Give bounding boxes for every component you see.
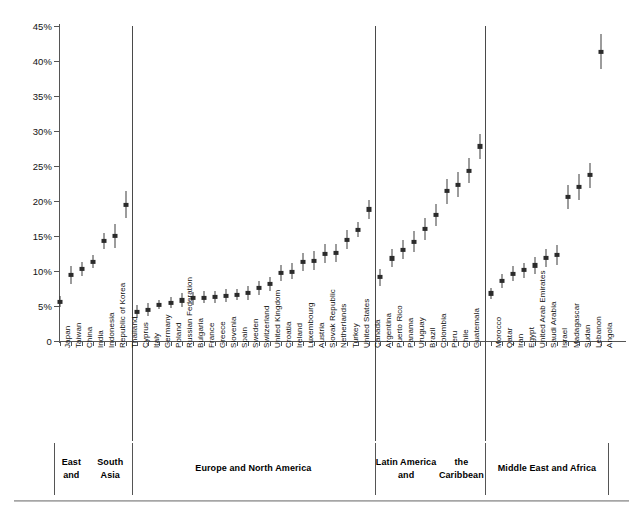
data-point-marker [91,260,96,264]
data-point-marker [378,275,383,279]
data-point-marker [433,213,438,217]
category-label: Iran [516,334,525,348]
data-point-marker [267,282,272,286]
data-point-marker [80,267,85,271]
category-label: China [85,327,94,348]
category-label: Morocco [494,317,503,348]
category-label: Peru [450,331,459,348]
data-point-marker [179,298,184,302]
y-axis-tick-label: 35% [0,91,52,102]
data-point-marker [444,189,449,193]
data-point-marker [555,253,560,257]
group-separator [375,26,376,441]
data-point-marker [400,248,405,252]
category-label: Sudan [583,324,592,348]
data-point-marker [334,251,339,255]
category-label: Germany [163,314,172,348]
y-axis-tick-label: 20% [0,196,52,207]
data-point-marker [466,169,471,173]
data-point-marker [312,258,317,262]
category-label: Cyprus [141,322,150,348]
group-caption-line: the Caribbean [437,456,485,482]
data-point-marker [234,293,239,297]
category-label: Luxembourg [306,303,315,348]
category-label: Egypt [527,327,536,348]
data-point-marker [223,293,228,297]
category-label: Russian Federation [185,277,194,348]
group-box-border [608,443,609,495]
group-caption: Europe and North America [132,443,375,495]
category-label: Bulgaria [196,318,205,348]
group-caption: Latin America andthe Caribbean [375,443,486,495]
category-label: Italy [152,333,161,348]
data-point-marker [345,237,350,241]
category-label: Republic of Korea [118,283,127,348]
data-point-marker [533,263,538,267]
data-point-marker [422,227,427,231]
category-label: Angola [605,322,614,348]
y-axis-tick-label: 30% [0,126,52,137]
data-point-marker [146,308,151,312]
group-caption-line: Middle East and Africa [498,462,596,475]
group-separator [485,26,486,441]
data-point-marker [367,207,372,211]
y-axis-tick-label: 10% [0,266,52,277]
group-caption-line: Latin America and [375,456,437,482]
category-label: Qatar [505,327,514,348]
category-label: Chile [461,329,470,348]
group-caption: East andSouth Asia [54,443,132,495]
data-point-marker [488,291,493,295]
data-point-marker [301,260,306,264]
data-point-marker [212,295,217,299]
data-point-marker [455,183,460,187]
category-label: Saudi Arabia [549,301,558,348]
data-point-marker [102,239,107,243]
data-point-marker [113,234,118,238]
data-point-marker [477,144,482,148]
category-label: Netherlands [339,304,348,348]
data-point-marker [544,256,549,260]
y-axis-tick [54,236,60,237]
category-label: Guatemala [472,308,481,348]
category-label: Lebanon [594,316,603,348]
data-point-marker [245,291,250,295]
group-caption-line: East and [54,456,89,482]
category-label: United Arab Emirates [538,270,547,348]
category-label: Austria [317,322,326,348]
category-label: Spain [240,327,249,348]
category-label: Madagascar [572,303,581,348]
category-label: Croatia [284,322,293,349]
footer-rule [14,500,629,502]
data-point-marker [157,303,162,307]
group-caption: Middle East and Africa [485,443,608,495]
category-label: France [207,323,216,349]
chart-figure: 05%10%15%20%25%30%35%40%45% JapanTaiwanC… [0,0,643,512]
category-label: Israel [560,328,569,348]
y-axis-tick [54,166,60,167]
group-caption-line: Europe and North America [195,462,311,475]
data-point-marker [389,256,394,260]
data-point-marker [577,185,582,189]
x-axis-tick [491,341,492,346]
y-axis-line [59,24,60,343]
category-label: Puerto Rico [395,305,404,348]
data-point-marker [411,240,416,244]
y-axis-tick [54,271,60,272]
data-point-marker [58,300,63,304]
category-label: United States [362,299,371,348]
data-point-marker [279,271,284,275]
data-point-marker [168,300,173,304]
category-label: Switzerland [262,306,271,348]
y-axis-tick-label: 0 [0,336,52,347]
y-axis-tick-label: 5% [0,301,52,312]
data-point-marker [256,286,261,290]
category-label: Canada [373,319,382,348]
y-axis-tick-label: 25% [0,161,52,172]
y-axis-tick [54,96,60,97]
data-point-marker [588,173,593,177]
y-axis-tick [54,26,60,27]
data-point-marker [500,279,505,283]
category-label: India [96,330,105,348]
data-point-marker [511,272,516,276]
data-point-marker [69,273,74,277]
